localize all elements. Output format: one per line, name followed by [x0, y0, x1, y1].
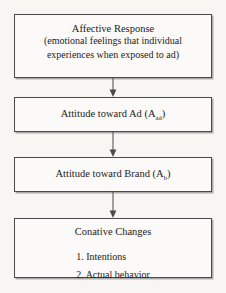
- affective-response-line-3: experiences when exposed to ad): [47, 49, 179, 61]
- list-item: 1. Intentions: [76, 251, 126, 262]
- box-affective-response: Affective Response (emotional feelings t…: [14, 14, 212, 78]
- affective-response-line-2: (emotional feelings that individual: [44, 35, 182, 47]
- attitude-ad-text-before: Attitude toward Ad (A: [61, 108, 156, 119]
- arrow-3-attitude-brand-to-conative: [110, 192, 117, 218]
- attitude-toward-brand-label: Attitude toward Brand (Ab): [55, 168, 170, 182]
- attitude-brand-text-before: Attitude toward Brand (A: [55, 168, 163, 179]
- conative-changes-list: 1. Intentions 2. Actual behavior: [76, 246, 150, 282]
- flowchart-diagram: Affective Response (emotional feelings t…: [0, 0, 226, 293]
- attitude-brand-text-after: ): [167, 168, 171, 179]
- attitude-toward-ad-label: Attitude toward Ad (Aad): [61, 108, 166, 122]
- arrow-1-affective-to-attitude-ad: [110, 78, 117, 97]
- box-attitude-toward-brand: Attitude toward Brand (Ab): [14, 157, 212, 192]
- box-conative-changes: Conative Changes 1. Intentions 2. Actual…: [14, 218, 212, 278]
- affective-response-title: Affective Response: [72, 23, 154, 35]
- arrow-2-attitude-ad-to-attitude-brand: [110, 132, 117, 157]
- conative-changes-title: Conative Changes: [75, 226, 152, 238]
- box-attitude-toward-ad: Attitude toward Ad (Aad): [14, 97, 212, 132]
- list-item: 2. Actual behavior: [76, 269, 150, 280]
- attitude-ad-text-after: ): [162, 108, 166, 119]
